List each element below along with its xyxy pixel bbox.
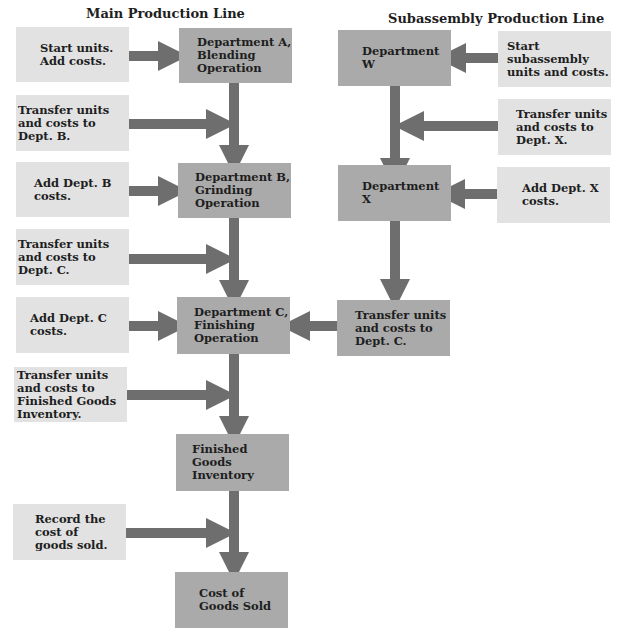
step-label: Transfer units and costs to Dept. B. <box>18 104 109 143</box>
department-x-box: Department X <box>338 165 451 221</box>
step-transfer-to-fg: Transfer units and costs to Finished Goo… <box>14 367 127 422</box>
step-label: Add Dept. X costs. <box>522 182 599 208</box>
step-label: Start subassembly units and costs. <box>507 40 611 79</box>
step-transfer-to-b: Transfer units and costs to Dept. B. <box>16 95 129 151</box>
step-transfer-to-c: Transfer units and costs to Dept. C. <box>16 229 129 285</box>
step-transfer-to-x: Transfer units and costs to Dept. X. <box>498 99 611 155</box>
department-label: Department A, Blending Operation <box>197 36 291 75</box>
department-label: Cost of Goods Sold <box>199 587 271 613</box>
step-label: Transfer units and costs to Finished Goo… <box>17 369 116 421</box>
step-start-subassembly: Start subassembly units and costs. <box>498 31 611 87</box>
step-add-x-costs: Add Dept. X costs. <box>497 167 610 223</box>
transfer-to-c-box: Transfer units and costs to Dept. C. <box>337 300 450 356</box>
department-label: Department B, Grinding Operation <box>195 171 290 210</box>
step-start-units: Start units. Add costs. <box>16 27 129 82</box>
department-label: Department X <box>362 180 439 206</box>
step-label: Add Dept. C costs. <box>30 312 107 338</box>
department-label: Finished Goods Inventory <box>192 443 289 482</box>
department-label: Transfer units and costs to Dept. C. <box>355 309 446 348</box>
department-label: Department W <box>362 45 439 71</box>
department-a-box: Department A, Blending Operation <box>179 28 292 83</box>
department-c-box: Department C, Finishing Operation <box>177 297 290 354</box>
cost-of-goods-sold-box: Cost of Goods Sold <box>175 572 288 628</box>
step-label: Transfer units and costs to Dept. C. <box>18 238 109 277</box>
step-label: Transfer units and costs to Dept. X. <box>516 108 607 147</box>
step-label: Record the cost of goods sold. <box>35 513 107 552</box>
finished-goods-box: Finished Goods Inventory <box>176 434 289 491</box>
step-add-b-costs: Add Dept. B costs. <box>16 162 129 217</box>
step-add-c-costs: Add Dept. C costs. <box>16 297 129 353</box>
step-label: Add Dept. B costs. <box>34 177 111 203</box>
step-record-cogs: Record the cost of goods sold. <box>13 504 126 560</box>
department-w-box: Department W <box>338 30 451 86</box>
step-label: Start units. Add costs. <box>40 42 113 68</box>
department-b-box: Department B, Grinding Operation <box>178 163 291 218</box>
department-label: Department C, Finishing Operation <box>194 306 288 345</box>
